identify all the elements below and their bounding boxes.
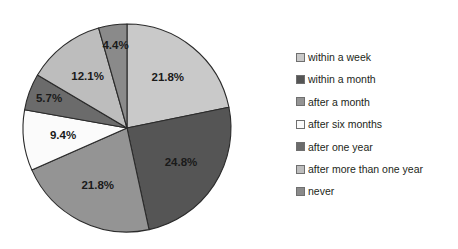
pie-slice-value-label: 21.8% <box>81 179 114 191</box>
legend-item-label: never <box>308 186 334 197</box>
legend-swatch-icon <box>296 75 305 84</box>
legend-item-label: after one year <box>308 142 373 153</box>
legend-swatch-icon <box>296 165 305 174</box>
pie-plot-area: 21.8%24.8%21.8%9.4%5.7%12.1%4.4% <box>0 0 270 249</box>
pie-slice-value-label: 12.1% <box>71 70 104 82</box>
pie-slice-value-label: 4.4% <box>102 39 128 51</box>
legend-item[interactable]: after one year <box>296 136 458 158</box>
legend-item-label: after six months <box>308 119 382 130</box>
pie-slice-value-label: 21.8% <box>151 71 184 83</box>
chart-legend: within a weekwithin a monthafter a month… <box>296 46 458 203</box>
legend-item[interactable]: after a month <box>296 91 458 113</box>
pie-svg: 21.8%24.8%21.8%9.4%5.7%12.1%4.4% <box>0 0 270 249</box>
legend-swatch-icon <box>296 187 305 196</box>
legend-item[interactable]: after six months <box>296 113 458 135</box>
legend-item-label: after more than one year <box>308 164 423 175</box>
legend-swatch-icon <box>296 53 305 62</box>
legend-item-label: after a month <box>308 97 370 108</box>
legend-swatch-icon <box>296 142 305 151</box>
legend-item[interactable]: within a week <box>296 46 458 68</box>
legend-item-label: within a week <box>308 52 371 63</box>
legend-swatch-icon <box>296 120 305 129</box>
legend-item-label: within a month <box>308 74 376 85</box>
legend-item[interactable]: within a month <box>296 68 458 90</box>
pie-slice-value-label: 5.7% <box>36 92 62 104</box>
legend-item[interactable]: never <box>296 180 458 202</box>
legend-swatch-icon <box>296 97 305 106</box>
pie-slice-value-label: 9.4% <box>50 129 76 141</box>
pie-chart-figure: 21.8%24.8%21.8%9.4%5.7%12.1%4.4% within … <box>0 0 458 249</box>
legend-item[interactable]: after more than one year <box>296 158 458 180</box>
pie-slice-value-label: 24.8% <box>165 156 198 168</box>
